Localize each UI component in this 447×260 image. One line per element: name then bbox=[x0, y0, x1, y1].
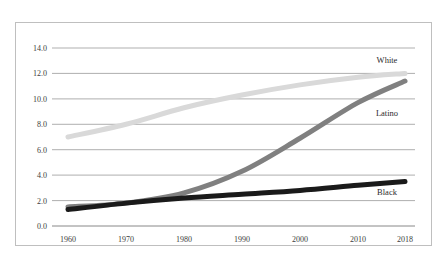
line-chart: 14.0 12.0 10.0 8.0 6.0 4.0 2.0 0.0 1960 … bbox=[16, 23, 431, 245]
series-label-latino: Latino bbox=[376, 108, 398, 118]
series-label-white: White bbox=[377, 55, 398, 65]
data-series-group bbox=[68, 73, 405, 209]
x-tick-1960: 1960 bbox=[60, 235, 76, 244]
x-tick-2010: 2010 bbox=[350, 235, 366, 244]
y-tick-0: 0.0 bbox=[37, 222, 47, 231]
y-tick-12: 12.0 bbox=[33, 69, 47, 78]
y-axis-labels: 14.0 12.0 10.0 8.0 6.0 4.0 2.0 0.0 bbox=[33, 44, 47, 231]
series-line-black bbox=[68, 182, 405, 210]
y-tick-14: 14.0 bbox=[33, 44, 47, 53]
x-tick-1990: 1990 bbox=[234, 235, 250, 244]
x-tick-1970: 1970 bbox=[118, 235, 134, 244]
y-tick-4: 4.0 bbox=[37, 171, 47, 180]
x-axis-labels: 1960 1970 1980 1990 2000 2010 2018 bbox=[60, 235, 413, 244]
y-tick-10: 10.0 bbox=[33, 95, 47, 104]
y-tick-6: 6.0 bbox=[37, 146, 47, 155]
x-tick-2018: 2018 bbox=[397, 235, 413, 244]
y-tick-2: 2.0 bbox=[37, 197, 47, 206]
y-tick-8: 8.0 bbox=[37, 120, 47, 129]
x-tick-2000: 2000 bbox=[292, 235, 308, 244]
series-label-black: Black bbox=[377, 187, 398, 197]
chart-container: 14.0 12.0 10.0 8.0 6.0 4.0 2.0 0.0 1960 … bbox=[15, 22, 432, 246]
x-tick-1980: 1980 bbox=[176, 235, 192, 244]
